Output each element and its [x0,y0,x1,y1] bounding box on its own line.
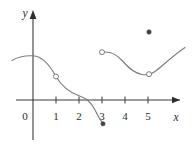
open-point-right-branch-minimum [147,72,152,77]
open-point-on-left-branch [54,74,59,79]
x-axis-label: x [172,111,179,123]
axes-group [16,10,180,140]
right-branch-curve [102,48,185,75]
y-axis-arrowhead [30,10,37,19]
tick-label-5: 5 [145,110,151,122]
tick-label-4: 4 [122,110,128,122]
axis-names: x y [21,7,179,123]
isolated-closed-point [147,30,151,34]
tick-label-1: 1 [53,110,59,122]
graph-canvas: 0 1 2 3 4 5 x y [0,0,194,149]
tick-label-2: 2 [76,110,82,122]
x-axis-arrowhead [172,97,180,103]
x-axis-tick-labels: 0 1 2 3 4 5 [22,110,151,122]
closed-endpoint-left-branch [101,122,105,126]
open-endpoint-right-branch-start [100,50,105,55]
graph-figure: 0 1 2 3 4 5 x y [0,0,194,149]
origin-label: 0 [22,110,28,122]
y-axis-label: y [21,7,28,20]
